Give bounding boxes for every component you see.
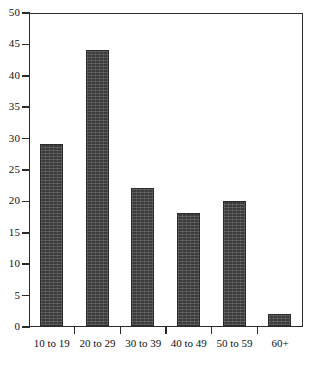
y-axis-tick-label: 20 (0, 195, 20, 206)
y-axis-tick-label: 10 (0, 258, 20, 269)
plot-area (29, 13, 303, 327)
y-axis-tick-label-text: 15 (0, 227, 20, 238)
x-axis-tick-mark (74, 327, 76, 334)
x-axis-category-label: 20 to 29 (75, 337, 121, 349)
x-axis-category-label: 60+ (257, 337, 303, 349)
x-axis-category-label: 50 to 59 (212, 337, 258, 349)
bar (40, 144, 63, 326)
y-axis-tick-label: 45 (0, 38, 20, 49)
y-axis-tick-label-text: 10 (0, 258, 20, 269)
bar (86, 50, 109, 326)
y-axis-tick-label-text: 5 (0, 290, 20, 301)
y-axis-tick-label: 25 (0, 164, 20, 175)
x-axis-category-label: 30 to 39 (120, 337, 166, 349)
y-axis-tick-label: 5 (0, 290, 20, 301)
bar (268, 314, 291, 327)
x-axis-category-label: 40 to 49 (166, 337, 212, 349)
y-axis-tick-label-text: 40 (0, 70, 20, 81)
y-axis-tick-label-text: 25 (0, 164, 20, 175)
y-axis-tick-label-text: 50 (0, 7, 20, 18)
y-axis-tick-label-text: 20 (0, 195, 20, 206)
y-axis-tick-label: 50 (0, 7, 20, 18)
y-axis-tick-label: 30 (0, 133, 20, 144)
y-axis-tick-label: 0 (0, 321, 20, 332)
y-axis-tick-label: 35 (0, 101, 20, 112)
y-axis-tick-label-text: 35 (0, 101, 20, 112)
bar-chart: 05101520253035404550 10 to 1920 to 2930 … (0, 0, 319, 366)
y-axis-tick-label: 40 (0, 70, 20, 81)
x-axis-tick-mark (120, 327, 122, 334)
y-axis-tick-label-text: 0 (0, 321, 20, 332)
x-axis-category-label: 10 to 19 (29, 337, 75, 349)
y-axis-tick-label: 15 (0, 227, 20, 238)
bar (223, 201, 246, 327)
bar (131, 188, 154, 326)
y-axis-tick-label-text: 45 (0, 38, 20, 49)
y-axis-tick-label-text: 30 (0, 133, 20, 144)
x-axis-tick-mark (257, 327, 259, 334)
x-axis-tick-mark (165, 327, 167, 334)
x-axis-tick-mark (211, 327, 213, 334)
bar (177, 213, 200, 326)
